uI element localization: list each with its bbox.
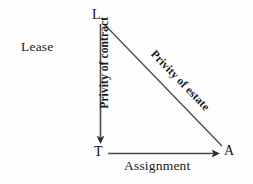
vertex-label-a: A — [224, 144, 234, 158]
lease-privity-diagram: L T A Lease Privity of contract Privity … — [0, 0, 253, 184]
label-assignment: Assignment — [124, 159, 191, 173]
label-lease: Lease — [21, 40, 53, 54]
label-privity-of-contract: Privity of contract — [99, 8, 111, 118]
diagram-canvas — [0, 0, 253, 184]
vertex-label-t: T — [94, 145, 103, 159]
edge-privity-of-estate-line — [104, 24, 222, 146]
